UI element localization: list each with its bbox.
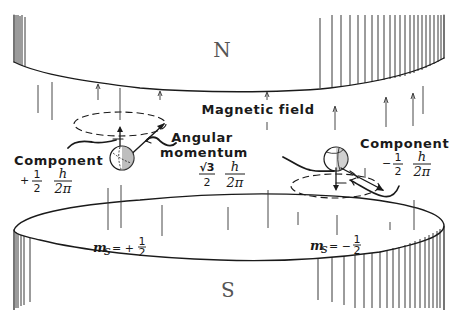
svg-text:Component: Component xyxy=(360,136,449,151)
svg-text:2: 2 xyxy=(139,246,146,259)
svg-text:h: h xyxy=(59,166,67,181)
north-pole-label: N xyxy=(213,38,231,62)
svg-text:−: − xyxy=(382,157,391,170)
svg-text:1: 1 xyxy=(395,151,402,164)
svg-text:2: 2 xyxy=(34,182,41,195)
svg-text:1: 1 xyxy=(34,168,41,181)
svg-text:s: s xyxy=(104,243,111,258)
svg-text:2: 2 xyxy=(354,244,361,257)
left-component-label: Component + 1 2 h 2π xyxy=(14,153,103,196)
svg-text:s: s xyxy=(321,241,328,256)
north-right-shading xyxy=(320,15,441,88)
south-magnet: S xyxy=(14,194,444,310)
svg-text:2: 2 xyxy=(395,165,402,178)
right-z-arrow-icon xyxy=(333,185,339,191)
svg-text:= +: = + xyxy=(112,242,134,255)
north-left-shading xyxy=(16,15,25,67)
angular-momentum-label: Angular momentum √3 2 h 2π xyxy=(160,130,248,190)
svg-text:momentum: momentum xyxy=(160,145,248,160)
north-magnet: N xyxy=(14,15,444,92)
right-spin-electron xyxy=(283,147,399,198)
svg-text:h: h xyxy=(418,149,426,164)
svg-text:Angular: Angular xyxy=(171,130,233,145)
svg-text:+: + xyxy=(20,174,29,187)
south-pole-label: S xyxy=(221,277,235,301)
svg-text:2π: 2π xyxy=(413,164,431,179)
svg-text:h: h xyxy=(231,159,239,174)
right-component-label: Component − 1 2 h 2π xyxy=(360,136,449,179)
left-ms-label: m s = + 1 2 xyxy=(93,235,146,259)
spin-magnetic-field-diagram: N xyxy=(0,0,458,310)
svg-text:= −: = − xyxy=(329,240,351,253)
svg-text:√3: √3 xyxy=(200,161,215,174)
magnetic-field-label: Magnetic field xyxy=(201,102,314,117)
left-electron-sphere xyxy=(110,146,134,170)
left-z-arrow-icon xyxy=(117,126,123,132)
south-left-shading xyxy=(16,232,30,308)
svg-text:2π: 2π xyxy=(54,181,72,196)
svg-text:2: 2 xyxy=(204,176,211,189)
svg-text:2π: 2π xyxy=(226,175,244,190)
right-ms-label: m s = − 1 2 xyxy=(310,233,361,257)
